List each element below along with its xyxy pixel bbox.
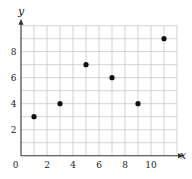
data-point: [57, 101, 62, 106]
scatter-chart: x y 02468102468: [0, 0, 192, 179]
y-tick-label: 6: [11, 73, 17, 83]
y-axis-label: y: [17, 5, 25, 18]
data-point: [109, 75, 114, 80]
x-tick-label: 0: [13, 160, 19, 170]
y-tick-label: 4: [11, 99, 17, 109]
x-tick-label: 2: [44, 160, 50, 170]
x-tick-label: 4: [70, 160, 76, 170]
data-point: [31, 114, 36, 119]
x-tick-label: 8: [122, 160, 128, 170]
y-tick-label: 8: [11, 47, 17, 57]
data-point: [135, 101, 140, 106]
data-point: [161, 36, 166, 41]
y-axis-arrow-icon: [19, 19, 24, 25]
x-tick-label: 6: [96, 160, 102, 170]
data-point: [83, 62, 88, 67]
y-tick-label: 2: [11, 125, 17, 135]
axes: x y: [17, 5, 187, 162]
x-axis-label: x: [180, 149, 187, 162]
grid: [21, 26, 177, 156]
x-tick-label: 10: [145, 160, 157, 170]
